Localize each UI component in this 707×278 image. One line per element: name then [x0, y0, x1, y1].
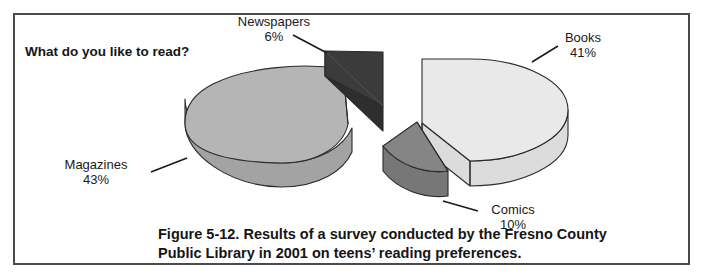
- leader-line-magazines: [151, 158, 187, 172]
- figure-caption-line-1: Figure 5-12. Results of a survey conduct…: [158, 225, 678, 244]
- slice-label-magazines-name: Magazines: [46, 157, 146, 172]
- slice-label-books-name: Books: [548, 30, 618, 45]
- figure-container: What do you like to read? Newspapers 6% …: [0, 0, 707, 278]
- question-title: What do you like to read?: [25, 44, 189, 59]
- figure-caption-line-2: Public Library in 2001 on teens’ reading…: [158, 244, 678, 263]
- leader-line-comics: [443, 201, 478, 211]
- slice-label-newspapers: Newspapers 6%: [226, 14, 322, 44]
- slice-label-magazines: Magazines 43%: [46, 157, 146, 187]
- slice-label-comics-name: Comics: [482, 202, 544, 217]
- slice-label-newspapers-name: Newspapers: [226, 14, 322, 29]
- slice-label-newspapers-value: 6%: [226, 29, 322, 44]
- slice-label-books-value: 41%: [548, 45, 618, 60]
- slice-label-magazines-value: 43%: [46, 172, 146, 187]
- pie-slice-magazines[interactable]: [185, 66, 352, 187]
- figure-caption: Figure 5-12. Results of a survey conduct…: [158, 225, 678, 263]
- slice-label-books: Books 41%: [548, 30, 618, 60]
